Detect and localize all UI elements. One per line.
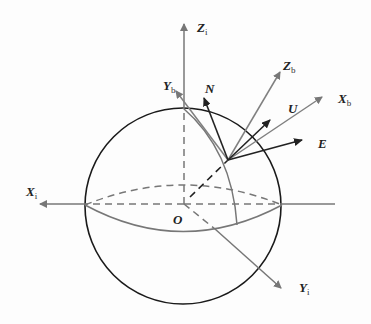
diagram-canvas: Zi Zb Yb N U Xb E Xi O Yi <box>0 0 371 324</box>
axis-yi-dashed <box>184 204 215 229</box>
meridian-arc <box>183 108 237 225</box>
label-u: U <box>288 101 298 116</box>
label-e: E <box>317 136 327 151</box>
equator-front <box>85 205 282 232</box>
axis-zb <box>228 72 280 160</box>
label-xi: Xi <box>25 184 38 201</box>
label-origin: O <box>173 212 183 227</box>
sphere-frames-diagram: Zi Zb Yb N U Xb E Xi O Yi <box>0 0 371 324</box>
label-yb: Yb <box>163 78 176 95</box>
label-yi: Yi <box>299 280 310 297</box>
radius-dashed <box>190 160 228 197</box>
label-zi: Zi <box>196 20 208 37</box>
label-n: N <box>204 81 215 96</box>
axis-n <box>204 98 228 160</box>
label-xb: Xb <box>337 91 352 108</box>
label-zb: Zb <box>282 58 296 75</box>
